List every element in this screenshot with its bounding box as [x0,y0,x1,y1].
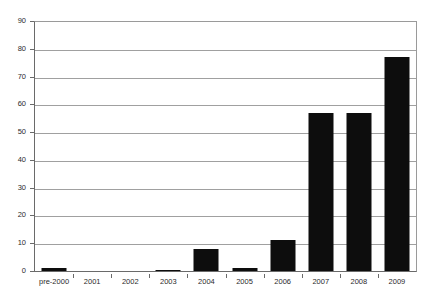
x-tick-mark [111,274,112,278]
x-tick-label: 2008 [351,278,368,286]
bar-slot [111,21,149,271]
y-tick-label: 60 [18,101,26,109]
y-tick-label: 50 [18,128,26,136]
bar-chart: 0102030405060708090 pre-2000200120022003… [0,0,431,303]
bar [384,57,409,271]
bar [346,113,371,271]
x-tick-label: 2009 [389,278,406,286]
y-tick-label: 30 [18,184,26,192]
bar-slot [302,21,340,271]
y-tick-label: 0 [22,267,26,275]
bar-slot [226,21,264,271]
bar [232,268,257,271]
x-tick-mark [264,274,265,278]
x-tick-mark [226,274,227,278]
x-tick-mark [187,274,188,278]
x-tick-mark [378,274,379,278]
y-tick-label: 80 [18,45,26,53]
x-tick-label: 2002 [122,278,139,286]
y-tick-label: 40 [18,156,26,164]
x-tick-mark [73,274,74,278]
x-tick-label: 2007 [312,278,329,286]
bar [194,249,219,271]
x-axis: pre-200020012002200320042005200620072008… [35,274,416,294]
x-tick-mark [340,274,341,278]
x-tick-label: 2001 [84,278,101,286]
bar-slot [378,21,416,271]
bars-layer [35,21,416,271]
x-tick-mark [149,274,150,278]
bar-slot [187,21,225,271]
bar-slot [73,21,111,271]
bar [270,240,295,271]
bar-slot [149,21,187,271]
bar-slot [340,21,378,271]
x-tick-label: 2006 [274,278,291,286]
x-tick-label: pre-2000 [39,278,69,286]
bar-slot [35,21,73,271]
y-axis: 0102030405060708090 [0,21,30,272]
y-tick-label: 90 [18,17,26,25]
bar [156,270,181,272]
bar-slot [264,21,302,271]
x-tick-label: 2005 [236,278,253,286]
x-tick-label: 2003 [160,278,177,286]
x-tick-mark [302,274,303,278]
y-tick-label: 70 [18,73,26,81]
y-tick-label: 10 [18,239,26,247]
y-tick-label: 20 [18,212,26,220]
bar [308,113,333,271]
x-tick-label: 2004 [198,278,215,286]
bar [42,268,67,271]
